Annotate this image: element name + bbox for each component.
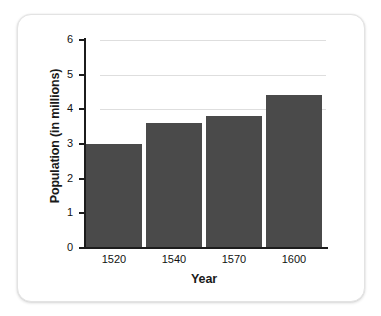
y-tick-mark xyxy=(79,212,84,214)
y-tick-label: 3 xyxy=(57,138,73,149)
x-tick-label: 1540 xyxy=(144,253,204,265)
y-tick-mark xyxy=(79,178,84,180)
x-tick-label: 1520 xyxy=(84,253,144,265)
y-tick-label: 0 xyxy=(57,242,73,253)
x-tick-label: 1570 xyxy=(204,253,264,265)
y-tick-label: 6 xyxy=(57,34,73,45)
x-axis-title: Year xyxy=(84,272,324,286)
bar[interactable] xyxy=(146,123,202,248)
bar[interactable] xyxy=(86,144,142,248)
y-tick-mark xyxy=(79,143,84,145)
gridline xyxy=(100,40,326,41)
x-tick-label: 1600 xyxy=(264,253,324,265)
y-tick-label: 5 xyxy=(57,69,73,80)
plot-area xyxy=(84,40,324,248)
y-tick-mark xyxy=(79,108,84,110)
bar[interactable] xyxy=(206,116,262,248)
gridline xyxy=(100,75,326,76)
y-tick-mark xyxy=(79,39,84,41)
figure-root: Population (in millions) 0123456 1520154… xyxy=(0,0,381,316)
bar[interactable] xyxy=(266,95,322,248)
y-tick-label: 2 xyxy=(57,173,73,184)
y-tick-label: 1 xyxy=(57,207,73,218)
y-tick-mark xyxy=(79,74,84,76)
y-tick-mark xyxy=(79,247,84,249)
y-tick-label: 4 xyxy=(57,103,73,114)
x-axis-line xyxy=(80,247,328,249)
y-axis-line xyxy=(84,38,86,249)
